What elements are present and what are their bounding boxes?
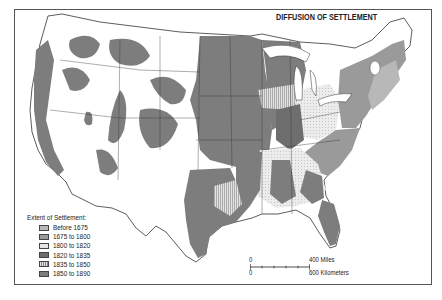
legend-item-1820-1835: 1820 to 1835 [39, 251, 97, 260]
legend: Extent of Settlement: Before 1675 1675 t… [27, 213, 97, 278]
map-title: DIFFUSION OF SETTLEMENT [276, 12, 377, 22]
scale-miles-zero: 0 [249, 256, 252, 263]
scale-ruler [250, 264, 312, 270]
swatch-1675-1800 [39, 234, 49, 240]
swatch-1800-1820 [39, 243, 49, 249]
legend-item-1675-1800: 1675 to 1800 [39, 232, 97, 241]
scale-miles-label: 400 Miles [309, 256, 334, 263]
legend-item-1800-1820: 1800 to 1820 [39, 241, 97, 250]
scale-km-zero: 0 [249, 269, 252, 276]
legend-item-1850-1890: 1850 to 1890 [39, 269, 97, 278]
swatch-1850-1890 [39, 271, 49, 277]
legend-title: Extent of Settlement: [27, 213, 86, 222]
legend-item-1835-1850: 1835 to 1850 [39, 260, 97, 269]
legend-item-before-1675: Before 1675 [39, 223, 97, 232]
scale-km-label: 600 Kilometers [309, 269, 349, 276]
swatch-1820-1835 [39, 252, 49, 258]
swatch-before-1675 [39, 225, 49, 231]
region-florida [318, 200, 340, 246]
swatch-1835-1850 [39, 261, 49, 267]
